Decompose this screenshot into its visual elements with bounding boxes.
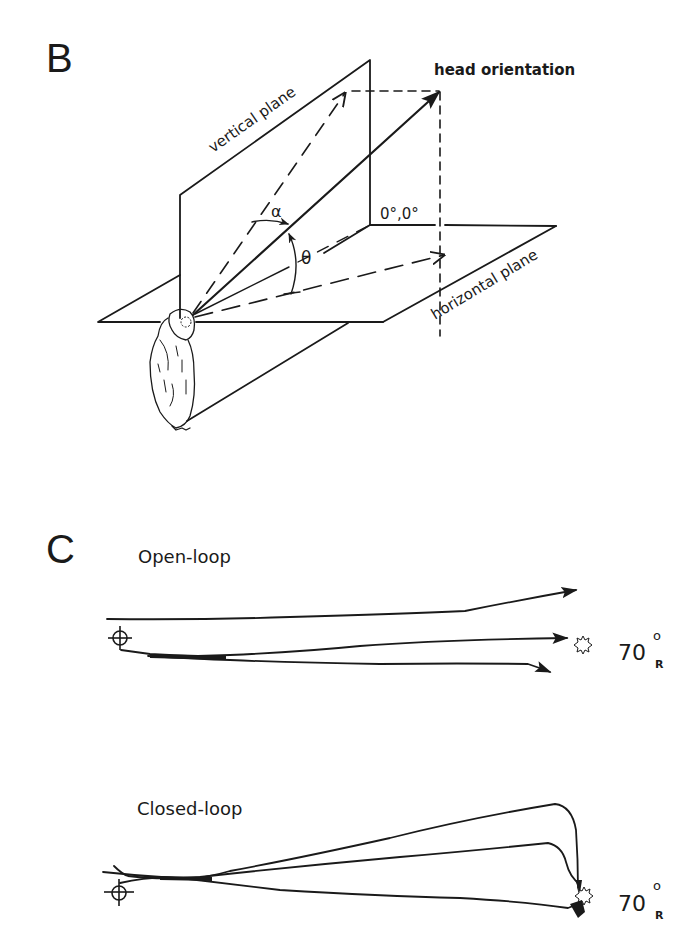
open-loop-plot: Open-loop 70 o R [107,546,664,672]
crosshair-start-icon [104,879,134,906]
open-loop-side-label: R [655,658,664,671]
alpha-label: α [271,202,282,221]
vertical-projection-arrow [193,93,345,313]
open-loop-title: Open-loop [138,546,231,567]
closed-loop-target-angle: 70 [618,891,646,916]
theta-label: θ [301,248,311,268]
crosshair-start-icon [108,626,132,650]
horizontal-projection-arrow [195,255,444,317]
head-orientation-label: head orientation [434,61,575,79]
open-loop-trace-1 [107,590,576,619]
theta-arc [289,234,296,294]
origin-label: 0°,0° [380,205,419,223]
horizontal-plane-label: horizontal plane [428,246,541,324]
closed-loop-trace-3 [120,878,578,908]
alpha-arc [252,220,288,224]
open-loop-target-angle: 70 [618,640,646,665]
star-target-icon [575,887,593,905]
closed-loop-side-label: R [655,909,664,922]
panel-c-letter: C [46,527,75,571]
open-loop-degree-symbol: o [653,628,661,643]
figure-canvas: B vertical plane horizontal plane 0°,0° … [0,0,689,949]
owl-illustration [150,309,195,430]
panel-c: C Open-loop 70 o R [46,527,664,922]
closed-loop-plot: Closed-loop 70 o R [103,798,664,922]
panel-b-letter: B [46,36,73,80]
closed-loop-degree-symbol: o [653,878,661,893]
theta-arc-tick [284,292,300,294]
closed-loop-title: Closed-loop [137,798,242,819]
star-target-icon [574,636,592,654]
open-loop-trace-2 [121,638,567,656]
panel-b: B vertical plane horizontal plane 0°,0° … [46,36,575,430]
